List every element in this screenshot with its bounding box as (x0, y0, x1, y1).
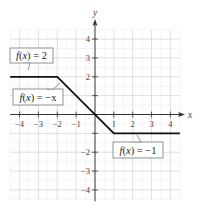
y-tick-label: 3 (86, 53, 90, 63)
x-tick-label: 1 (112, 119, 116, 129)
x-tick-label: 2 (131, 119, 135, 129)
annotation-label: f(x) = −1 (120, 145, 157, 157)
x-tick-label: −1 (72, 119, 81, 129)
x-tick-label: −3 (34, 119, 43, 129)
piecewise-function-chart: −4−3−2−11234−4−3−2234 f(x) = 2f(x) = −xf… (0, 0, 203, 213)
annotation-label: f(x) = 2 (16, 50, 47, 62)
x-tick-label: 3 (149, 119, 153, 129)
annotation-callout: f(x) = −1 (113, 135, 163, 158)
y-tick-label: −3 (81, 166, 90, 176)
annotation-pointer (134, 135, 141, 142)
x-tick-label: −2 (53, 119, 62, 129)
y-tick-label: −4 (81, 185, 91, 195)
annotation-label: f(x) = −x (20, 92, 58, 104)
annotation-callout: f(x) = 2 (10, 48, 53, 70)
annotations: f(x) = 2f(x) = −xf(x) = −1 (10, 48, 163, 158)
x-axis-label: x (187, 110, 193, 120)
y-tick-label: −2 (81, 147, 90, 157)
y-axis-label: y (92, 8, 98, 18)
axes (10, 19, 185, 201)
x-tick-label: −4 (15, 119, 25, 129)
y-tick-label: 2 (86, 72, 90, 82)
x-tick-label: 4 (168, 119, 173, 129)
